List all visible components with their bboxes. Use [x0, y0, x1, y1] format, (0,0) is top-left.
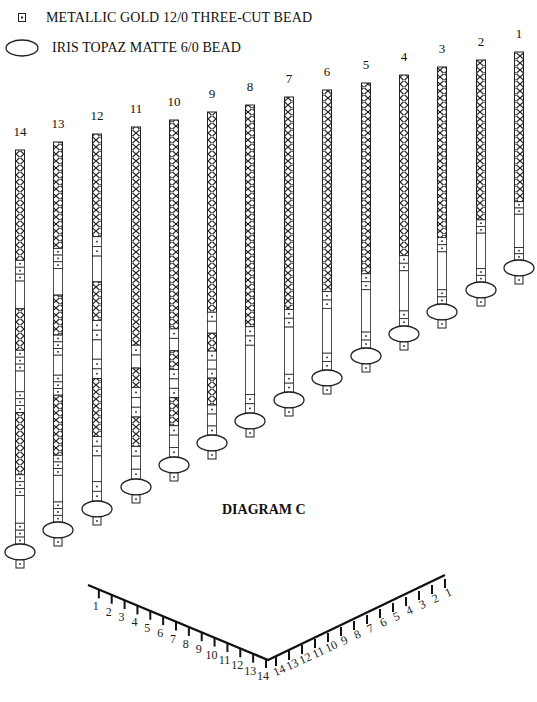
scale-tick-label: 7 [365, 621, 376, 636]
strand-label: 8 [247, 79, 254, 95]
strand-label: 6 [324, 64, 331, 80]
oval-bead-icon [82, 501, 112, 517]
scale-tick-label: 2 [106, 605, 112, 619]
strand-label: 12 [91, 108, 104, 124]
scale-tick-label: 10 [323, 637, 340, 655]
strand-7 [274, 97, 304, 416]
oval-bead-icon [389, 326, 419, 342]
oval-bead-icon [274, 392, 304, 408]
scale-tick-label: 6 [157, 626, 163, 640]
diagram-title: DIAGRAM C [222, 502, 306, 518]
strand-11 [121, 127, 151, 503]
strand-3 [427, 67, 457, 328]
strand-4 [389, 75, 419, 350]
strand-label: 4 [401, 49, 408, 65]
oval-bead-icon [427, 304, 457, 320]
strand-2 [466, 60, 496, 306]
oval-bead-icon [5, 544, 35, 560]
scale-tick-label: 8 [352, 627, 363, 642]
scale-tick-label: 11 [219, 653, 231, 667]
beading-diagram: 12345678910111213141413121110987654321 [0, 0, 537, 702]
oval-bead-icon [235, 413, 265, 429]
strand-13 [43, 142, 73, 546]
scale-tick-label: 1 [93, 599, 99, 613]
scale-tick-label: 3 [119, 610, 125, 624]
scale-tick-label: 14 [257, 669, 269, 683]
scale-tick-label: 5 [144, 621, 150, 635]
strand-label: 13 [52, 116, 65, 132]
scale-tick-label: 9 [196, 642, 202, 656]
strand-label: 1 [516, 26, 523, 42]
oval-bead-icon [121, 479, 151, 495]
oval-bead-icon [504, 260, 534, 276]
scale-tick-label: 1 [443, 585, 454, 600]
strand-label: 11 [130, 101, 143, 117]
strand-label: 10 [168, 94, 181, 110]
scale-tick-label: 4 [131, 615, 137, 629]
strand-10 [159, 120, 189, 481]
scale-tick-label: 12 [231, 658, 243, 672]
scale-tick-label: 3 [417, 597, 428, 612]
strand-9 [197, 112, 227, 459]
oval-bead-icon [351, 348, 381, 364]
strand-label: 7 [286, 71, 293, 87]
scale-tick-label: 10 [206, 648, 218, 662]
scale-tick-label: 9 [339, 633, 350, 648]
oval-bead-icon [312, 370, 342, 386]
scale-tick-label: 7 [170, 632, 176, 646]
strand-label: 14 [14, 124, 27, 140]
oval-bead-icon [197, 435, 227, 451]
oval-bead-icon [43, 522, 73, 538]
scale-tick-label: 5 [391, 609, 402, 624]
scale-tick-label: 4 [404, 603, 415, 618]
strand-14 [5, 150, 35, 568]
strand-label: 3 [439, 41, 446, 57]
strand-label: 5 [363, 57, 370, 73]
scale-tick-label: 13 [244, 664, 256, 678]
strand-12 [82, 134, 112, 525]
strand-1 [504, 52, 534, 284]
strands-group [5, 52, 534, 568]
strand-label: 9 [209, 86, 216, 102]
oval-bead-icon [466, 282, 496, 298]
scale-tick-label: 2 [430, 591, 441, 606]
oval-bead-icon [159, 457, 189, 473]
strand-label: 2 [478, 34, 485, 50]
strand-5 [351, 83, 381, 372]
v-scale: 12345678910111213141413121110987654321 [88, 575, 454, 683]
strand-6 [312, 90, 342, 394]
scale-tick-label: 6 [378, 615, 389, 630]
strand-8 [235, 105, 265, 437]
scale-tick-label: 8 [183, 637, 189, 651]
